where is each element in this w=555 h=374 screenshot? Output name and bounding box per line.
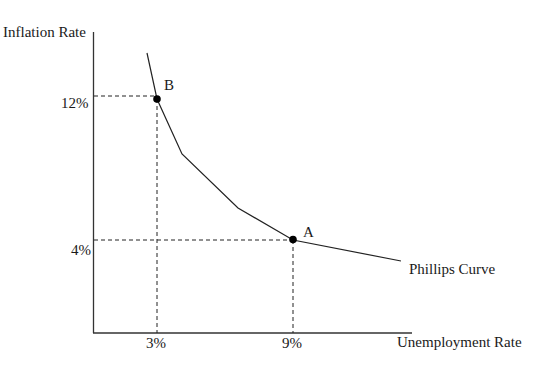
curve-label: Phillips Curve <box>409 262 495 277</box>
x-tick-9: 9% <box>282 336 302 351</box>
point-a-marker <box>289 236 297 244</box>
y-axis-label: Inflation Rate <box>3 25 86 40</box>
chart-canvas <box>0 0 555 374</box>
point-a-label: A <box>303 225 314 240</box>
point-b-label: B <box>164 78 174 93</box>
x-tick-3: 3% <box>146 336 166 351</box>
y-tick-12: 12% <box>61 96 89 111</box>
phillips-curve-line <box>147 53 401 261</box>
point-b-marker <box>153 95 161 103</box>
x-axis-label: Unemployment Rate <box>397 335 522 350</box>
guide-lines <box>94 96 293 333</box>
y-tick-4: 4% <box>71 243 91 258</box>
